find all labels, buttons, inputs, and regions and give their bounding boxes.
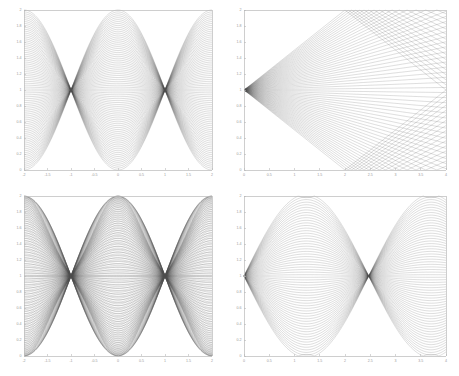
x-tick-label: 1.5 xyxy=(317,173,322,177)
curve xyxy=(244,236,446,316)
curve xyxy=(244,215,446,337)
plot-svg-top-left: -2-1.5-1-0.500.511.5200.20.40.60.811.21.… xyxy=(0,0,229,188)
plot-svg-bottom-right: 00.511.522.533.5400.20.40.60.811.21.41.6… xyxy=(229,188,459,376)
curve xyxy=(244,200,446,353)
curve xyxy=(244,90,446,143)
y-tick-label: 1.2 xyxy=(17,72,22,76)
y-tick-label: 0.2 xyxy=(17,338,22,342)
curve xyxy=(244,90,446,128)
curve-family-top-right xyxy=(244,10,446,170)
y-tick-label: 1.4 xyxy=(17,242,22,246)
curve xyxy=(244,10,446,90)
curve xyxy=(244,87,446,90)
curve xyxy=(24,76,212,105)
y-tick-label: 1.4 xyxy=(237,242,242,246)
curve xyxy=(244,196,446,356)
y-tick-label: 0.6 xyxy=(17,306,22,310)
curve xyxy=(24,47,212,134)
x-tick-label: 0 xyxy=(243,359,245,363)
curve xyxy=(24,85,212,95)
x-tick-label: -1.5 xyxy=(44,173,50,177)
curve xyxy=(244,10,446,90)
curve xyxy=(244,246,446,306)
curve xyxy=(244,90,446,170)
curve xyxy=(244,90,446,170)
axes-top-left xyxy=(24,10,212,170)
curve xyxy=(244,241,446,311)
curve xyxy=(244,10,446,90)
curve xyxy=(244,90,446,170)
curve xyxy=(24,81,212,98)
curve xyxy=(244,197,446,355)
y-tick-label: 0 xyxy=(240,354,242,358)
plot-panel-top-left: -2-1.5-1-0.500.511.5200.20.40.60.811.21.… xyxy=(0,0,229,188)
curve xyxy=(244,246,446,306)
curve xyxy=(244,90,446,170)
curve xyxy=(24,37,212,143)
plot-panel-bottom-left: -2-1.5-1-0.500.511.5200.20.40.60.811.21.… xyxy=(0,188,229,376)
y-tick-label: 2 xyxy=(20,8,22,12)
curve xyxy=(244,90,446,148)
curve xyxy=(244,27,446,90)
y-tick-label: 1 xyxy=(20,274,22,278)
curve xyxy=(24,14,212,166)
curve xyxy=(24,72,212,109)
curve xyxy=(244,231,446,322)
y-tick-label: 0.2 xyxy=(237,338,242,342)
curve xyxy=(244,249,446,303)
curve xyxy=(244,90,446,170)
curve xyxy=(24,18,212,163)
x-tick-label: 0 xyxy=(117,173,119,177)
curve xyxy=(244,215,446,337)
y-tick-label: 0.4 xyxy=(17,322,22,326)
curve xyxy=(24,72,212,109)
curve xyxy=(244,90,446,170)
plot-svg-bottom-left: -2-1.5-1-0.500.511.5200.20.40.60.811.21.… xyxy=(0,188,229,376)
curve xyxy=(244,90,446,170)
y-tick-label: 0 xyxy=(20,354,22,358)
curve xyxy=(24,87,212,93)
curve xyxy=(244,218,446,335)
curve xyxy=(244,90,446,93)
curve xyxy=(244,197,446,355)
curve xyxy=(24,85,212,95)
x-tick-label: 0.5 xyxy=(139,359,144,363)
curve xyxy=(24,66,212,114)
curve xyxy=(24,56,212,123)
curve xyxy=(24,52,212,127)
curve xyxy=(244,10,446,90)
x-tick-label: 1.5 xyxy=(186,173,191,177)
curve xyxy=(244,57,446,90)
curve xyxy=(24,14,212,166)
curve xyxy=(244,10,446,90)
curve xyxy=(244,90,446,123)
curve xyxy=(24,12,212,168)
curve xyxy=(244,10,446,90)
x-tick-label: 1.5 xyxy=(317,359,322,363)
curve xyxy=(24,52,212,127)
y-tick-label: 1.4 xyxy=(237,56,242,60)
x-tick-label: 2 xyxy=(211,359,213,363)
y-tick-label: 1.2 xyxy=(237,258,242,262)
y-tick-label: 0.6 xyxy=(17,120,22,124)
x-tick-label: 0.5 xyxy=(139,173,144,177)
curve xyxy=(244,90,446,170)
x-tick-label: -2 xyxy=(22,173,25,177)
y-tick-label: 0.4 xyxy=(237,322,242,326)
x-tick-label: -0.5 xyxy=(91,173,97,177)
curve xyxy=(244,259,446,293)
curve xyxy=(24,33,212,147)
curve xyxy=(244,225,446,326)
curve xyxy=(244,90,446,170)
curve xyxy=(24,74,212,107)
curve xyxy=(244,220,446,331)
y-tick-label: 1.4 xyxy=(17,56,22,60)
curve xyxy=(244,90,446,103)
curve xyxy=(244,228,446,324)
curve xyxy=(24,43,212,137)
curve xyxy=(24,43,212,137)
y-tick-label: 0.2 xyxy=(17,152,22,156)
x-tick-label: 0 xyxy=(117,359,119,363)
x-tick-label: 2 xyxy=(344,173,346,177)
y-tick-label: 0.6 xyxy=(237,120,242,124)
